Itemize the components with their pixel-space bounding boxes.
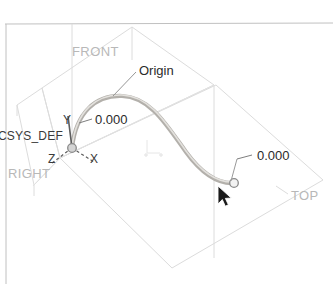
end-dimension-leader-line <box>237 155 252 159</box>
datum-plane-label-front[interactable]: FRONT <box>72 44 119 59</box>
origin-annotation-label[interactable]: Origin <box>139 63 174 78</box>
end-dimension-witness-line <box>231 159 237 181</box>
sketched-spline-curve[interactable] <box>72 95 234 183</box>
csys-axis-label-y: Y <box>63 113 71 127</box>
cad-3d-viewport[interactable]: FRONT RIGHT TOP CSYS_DEF Y Z X Origin 0.… <box>0 0 333 284</box>
end-point-dimension-label[interactable]: 0.000 <box>257 148 290 163</box>
csys-axis-label-z: Z <box>48 152 55 166</box>
csys-axis-label-x: X <box>90 152 98 166</box>
csys-label[interactable]: CSYS_DEF <box>0 129 63 143</box>
top-plane-label-tick <box>276 186 288 194</box>
origin-leader-line <box>113 72 136 96</box>
datum-plane-front[interactable] <box>42 27 214 158</box>
datum-point-marker <box>145 140 162 156</box>
start-point-dimension-label[interactable]: 0.000 <box>95 112 128 127</box>
datum-plane-label-top[interactable]: TOP <box>291 188 319 203</box>
spline-start-point <box>68 144 77 153</box>
mouse-pointer <box>218 186 231 206</box>
datum-plane-label-right[interactable]: RIGHT <box>8 166 50 181</box>
